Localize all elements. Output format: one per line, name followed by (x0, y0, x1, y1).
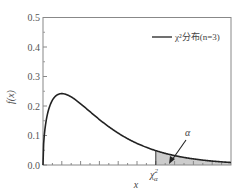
x-axis-label: x (133, 179, 139, 190)
critical-value-label: χ2α (149, 167, 158, 183)
y-tick-label: 0.1 (28, 130, 41, 141)
y-tick-label: 0.2 (28, 101, 41, 112)
legend-label: χ²分布(n=3) (174, 31, 220, 42)
chi-square-chart: 0.00.10.20.30.40.5 χ²分布(n=3) f(x) x α χ2… (0, 0, 237, 194)
alpha-label: α (185, 127, 191, 138)
y-tick-label: 0.4 (28, 42, 41, 53)
y-tick-label: 0.3 (28, 71, 41, 82)
y-tick-label: 0.5 (28, 12, 41, 23)
chi2-pdf-curve (43, 94, 231, 165)
y-tick-label: 0.0 (28, 160, 41, 171)
y-axis-label: f(x) (5, 89, 17, 104)
